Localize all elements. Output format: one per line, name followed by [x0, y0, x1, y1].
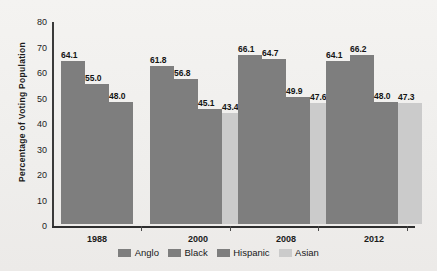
bar-value-label: 49.9	[286, 87, 303, 96]
bars-row: 64.155.048.0	[61, 20, 133, 224]
plot-area: 80706050403020100 64.155.048.061.856.845…	[52, 22, 415, 226]
chart-legend: AngloBlackHispanicAsian	[0, 248, 437, 258]
bar-fill	[85, 84, 109, 224]
bar-value-label: 61.8	[150, 56, 167, 65]
bar-fill	[238, 55, 262, 224]
y-tick-label: 80	[37, 18, 47, 27]
legend-item[interactable]: Asian	[279, 248, 319, 258]
y-tick-label: 30	[37, 145, 47, 154]
legend-label: Hispanic	[233, 248, 269, 258]
legend-swatch-icon	[118, 249, 131, 257]
legend-label: Asian	[295, 248, 319, 258]
bars-row: 66.164.749.947.6	[238, 20, 334, 224]
x-axis-label: 2012	[326, 234, 422, 244]
y-tick-label: 50	[37, 94, 47, 103]
bar-group: 66.164.749.947.6	[238, 20, 334, 224]
y-tick-label: 40	[37, 120, 47, 129]
x-axis-tick	[407, 226, 408, 231]
bar-value-label: 66.1	[238, 45, 255, 54]
bar-fill	[198, 109, 222, 224]
bar-value-label: 64.7	[262, 49, 279, 58]
x-axis-tick	[318, 226, 319, 231]
bar-value-label: 45.1	[198, 99, 215, 108]
bar-value-label: 64.1	[61, 51, 78, 60]
y-axis-title: Percentage of Voting Population	[17, 22, 27, 202]
bar-fill	[398, 103, 422, 224]
bar-fill	[262, 59, 286, 224]
bar-fill	[150, 66, 174, 224]
y-axis-line	[52, 22, 54, 227]
bar-fill	[61, 61, 85, 224]
bar-fill	[286, 97, 310, 224]
bar-group: 64.155.048.0	[61, 20, 133, 224]
legend-swatch-icon	[279, 249, 292, 257]
y-tick-label: 60	[37, 69, 47, 78]
bar-value-label: 43.4	[222, 103, 239, 112]
bar-value-label: 48.0	[109, 92, 126, 101]
bar-value-label: 55.0	[85, 74, 102, 83]
bar-value-label: 56.8	[174, 69, 191, 78]
legend-swatch-icon	[217, 249, 230, 257]
bar-chart: Percentage of Voting Population 80706050…	[0, 0, 437, 271]
y-tick-label: 20	[37, 171, 47, 180]
bars-row: 64.166.248.047.3	[326, 20, 422, 224]
bar-value-label: 48.0	[374, 92, 391, 101]
legend-label: Anglo	[135, 248, 159, 258]
x-axis-tick	[230, 226, 231, 231]
bar-fill	[326, 61, 350, 224]
bars-row: 61.856.845.143.4	[150, 20, 246, 224]
x-axis-label: 2000	[150, 234, 246, 244]
bar-group: 64.166.248.047.3	[326, 20, 422, 224]
y-tick-label: 10	[37, 196, 47, 205]
bar-value-label: 64.1	[326, 51, 343, 60]
x-axis-label: 2008	[238, 234, 334, 244]
x-axis-label: 1988	[61, 234, 133, 244]
legend-swatch-icon	[168, 249, 181, 257]
x-axis-tick	[141, 226, 142, 231]
bar-value-label: 47.6	[310, 93, 327, 102]
bar-fill	[174, 79, 198, 224]
legend-item[interactable]: Black	[168, 248, 208, 258]
x-axis-line	[52, 226, 415, 228]
bar-value-label: 47.3	[398, 93, 415, 102]
legend-item[interactable]: Hispanic	[217, 248, 270, 258]
y-tick-label: 0	[42, 222, 47, 231]
bar-value-label: 66.2	[350, 45, 367, 54]
bar-fill	[109, 102, 133, 224]
bar-fill	[374, 102, 398, 224]
y-tick-label: 70	[37, 43, 47, 52]
legend-item[interactable]: Anglo	[118, 248, 159, 258]
bar-group: 61.856.845.143.4	[150, 20, 246, 224]
bar-fill	[350, 55, 374, 224]
legend-label: Black	[184, 248, 207, 258]
